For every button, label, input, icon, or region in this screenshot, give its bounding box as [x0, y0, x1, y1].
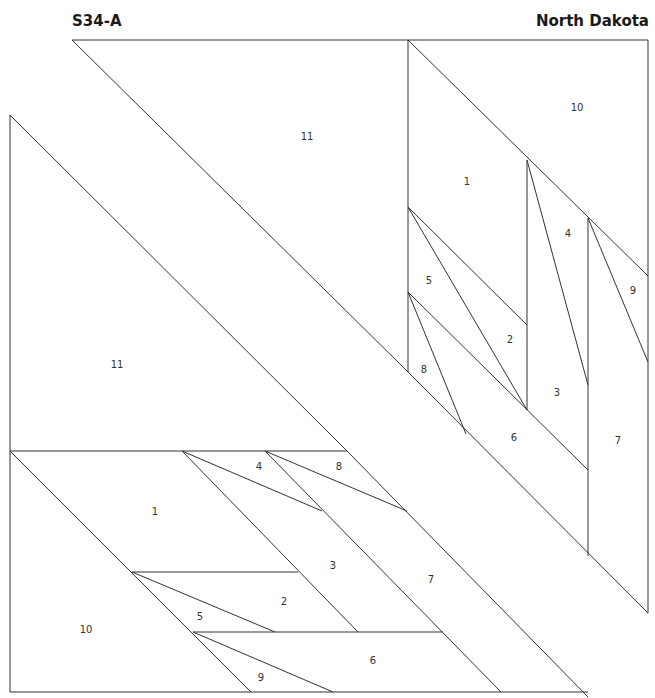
lower-diag-1 — [182, 451, 358, 632]
label-lower-5: 5 — [197, 611, 203, 622]
diag-8 — [408, 292, 466, 434]
piece-labels: 11 10 1 4 9 5 2 8 3 6 7 11 4 8 1 3 7 2 1… — [80, 102, 637, 683]
foundation-pattern-diagram: 11 10 1 4 9 5 2 8 3 6 7 11 4 8 1 3 7 2 1… — [0, 0, 655, 698]
left-section-lines — [10, 115, 588, 692]
diag-8-top — [408, 292, 588, 470]
label-lower-8: 8 — [336, 461, 342, 472]
left-diagonal — [10, 115, 347, 451]
diag-5 — [408, 207, 527, 410]
label-upper-4: 4 — [565, 228, 571, 239]
label-upper-2: 2 — [507, 334, 513, 345]
diag-4 — [527, 160, 588, 385]
label-lower-3: 3 — [330, 560, 336, 571]
lower-section-lines — [10, 451, 501, 692]
label-upper-10: 10 — [571, 102, 584, 113]
upper-section-lines — [72, 40, 648, 697]
label-lower-9: 9 — [258, 672, 264, 683]
upper-band-diagonal — [72, 40, 408, 372]
label-lower-7: 7 — [428, 574, 434, 585]
lower-diag-4 — [182, 451, 322, 511]
diagonal-10 — [408, 40, 648, 276]
label-lower-1: 1 — [152, 506, 158, 517]
diag-1-bottom — [408, 207, 527, 325]
label-left-11: 11 — [111, 359, 124, 370]
label-upper-7: 7 — [615, 435, 621, 446]
label-lower-10: 10 — [80, 624, 93, 635]
band-inner-diagonal — [408, 372, 648, 613]
label-upper-5: 5 — [426, 275, 432, 286]
lower-diag-8 — [265, 451, 407, 511]
label-upper-1: 1 — [464, 176, 470, 187]
lower-diag-9 — [193, 632, 333, 692]
band-inner-diagonal-2 — [347, 451, 588, 697]
lower-diag-2 — [132, 572, 275, 632]
diag-9 — [588, 218, 648, 362]
label-upper-9: 9 — [630, 285, 636, 296]
label-lower-6: 6 — [370, 655, 376, 666]
label-upper-6: 6 — [511, 432, 517, 443]
label-lower-2: 2 — [281, 596, 287, 607]
label-lower-4: 4 — [256, 461, 262, 472]
label-upper-8: 8 — [421, 364, 427, 375]
label-upper-3: 3 — [554, 387, 560, 398]
label-upper-11: 11 — [301, 131, 314, 142]
